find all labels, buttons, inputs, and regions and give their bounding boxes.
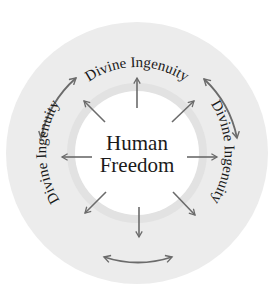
center-label-line2: Freedom [100,153,175,177]
center-label-line1: Human [106,131,168,155]
divine-ingenuity-diagram: Divine Ingenuity Divine Ingenuity Divine… [0,0,274,298]
